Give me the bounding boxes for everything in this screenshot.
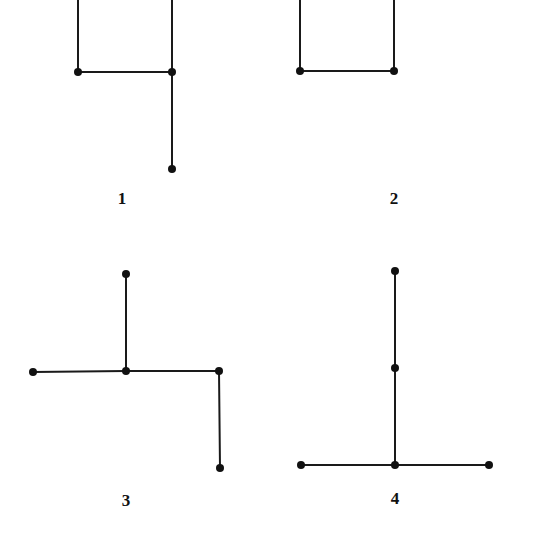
figure-label: 1 [118,189,127,208]
graph-node [390,67,398,75]
figure-label: 2 [390,189,399,208]
figure-3: 3 [29,270,224,510]
figure-1: 1 [74,0,176,208]
graph-node [215,367,223,375]
graph-node [391,267,399,275]
graph-node [168,68,176,76]
figure-label: 3 [122,491,131,510]
graph-node [122,270,130,278]
graph-node [296,67,304,75]
graph-node [391,364,399,372]
figure-label: 4 [391,489,400,508]
graph-node [485,461,493,469]
figure-2: 2 [296,0,398,208]
graph-node [297,461,305,469]
graph-edge [33,371,126,372]
graph-edge [219,371,220,468]
graph-node [391,461,399,469]
graph-node [168,165,176,173]
graph-node [216,464,224,472]
graph-node [29,368,37,376]
figure-4: 4 [297,267,493,508]
graph-node [122,367,130,375]
diagram-canvas: 1 2 3 4 [0,0,538,534]
graph-node [74,68,82,76]
